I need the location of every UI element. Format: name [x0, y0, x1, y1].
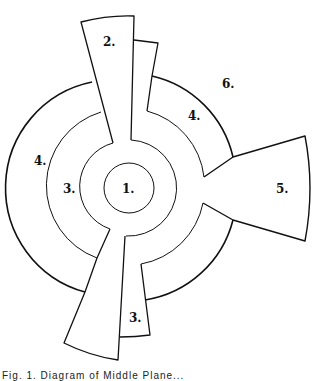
bottom-wedge-small	[120, 264, 150, 337]
label-zone-1: 1.	[122, 182, 135, 196]
figure-caption: Fig. 1. Diagram of Middle Plane...	[2, 370, 184, 381]
label-zone-3-bottom: 3.	[129, 311, 142, 325]
outer-ring-left-arc	[6, 82, 92, 292]
label-zone-4-right: 4.	[188, 109, 201, 123]
middle-ring-right-lower-arc	[141, 203, 203, 264]
label-zone-5: 5.	[276, 182, 289, 196]
label-zone-4-left: 4.	[34, 154, 47, 168]
inner-ring-left-arc	[80, 143, 113, 229]
outer-ring-right-lower-arc	[145, 220, 233, 300]
narrow-top-wedge	[134, 40, 158, 111]
right-wedge	[203, 136, 310, 241]
bottom-wedge-large	[64, 229, 125, 360]
label-zone-6: 6.	[222, 77, 235, 91]
label-zone-3-left: 3.	[63, 182, 76, 196]
label-zone-2: 2.	[103, 35, 116, 49]
